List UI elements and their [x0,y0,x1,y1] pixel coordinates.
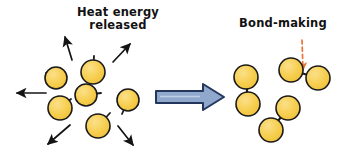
atom-l1 [45,67,67,89]
energy-arrow-down-right-icon [118,126,133,145]
atom-l5-circle [86,114,110,138]
left-atoms-group [45,56,139,138]
atom-l2-circle [81,60,105,84]
molecule-r2-atom-a [279,58,303,82]
molecule-r1-atom-a [234,65,258,89]
molecule-r2-atom-b [306,66,330,90]
molecule-r1 [234,65,260,116]
diagram-canvas: Heat energy released Bond-making [0,0,344,162]
molecule-r3-atom-a [276,96,300,120]
atom-l4-circle [48,96,72,120]
atom-l4 [48,96,72,120]
right-molecules-group [234,58,330,142]
molecule-r3-atom-b [259,118,283,142]
exothermic-reaction-illustration: Heat energy released Bond-making [0,0,344,162]
energy-arrow-up-left-icon [65,37,72,60]
bond-making-label: Bond-making [239,16,327,30]
heat-energy-label: Heat energy released [77,5,159,32]
heat-energy-label-line1: Heat energy [77,5,159,19]
atom-l6 [117,89,139,114]
reaction-arrow [156,84,224,110]
atom-l5 [86,113,110,138]
atom-l2 [81,56,105,84]
atom-l3-circle [75,84,97,106]
atom-l1-circle [45,67,67,89]
atom-l6-circle [117,89,139,111]
molecule-r2 [279,58,330,90]
energy-arrow-up-right-icon [113,44,130,62]
heat-energy-label-line2: released [89,18,146,32]
molecule-r1-atom-b [236,92,260,116]
atom-l3 [75,84,101,106]
molecule-r3 [259,96,300,142]
energy-arrow-down-left-icon [48,125,70,144]
bond-making-label-text: Bond-making [239,16,327,30]
